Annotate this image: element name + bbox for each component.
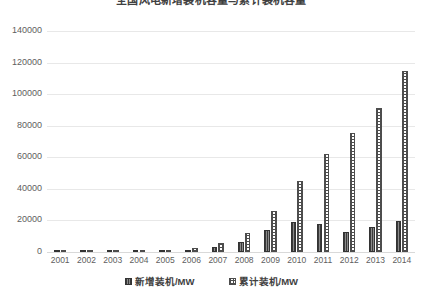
bar-new-capacity[interactable] [369,227,375,252]
x-axis-tick-label: 2002 [73,256,99,265]
y-axis-tick-label: 0 [0,247,42,256]
x-axis-tick-label: 2001 [47,256,73,265]
x-axis-tick-label: 2005 [152,256,178,265]
legend-item[interactable]: 新增装机/MW [125,274,195,288]
x-axis: 2001200220032004200520062007200820092010… [47,256,415,268]
x-axis-tick-label: 2011 [310,256,336,265]
x-axis-tick-label: 2013 [362,256,388,265]
bar-new-capacity[interactable] [264,230,270,252]
y-axis-tick-label: 80000 [0,121,42,130]
x-axis-tick-label: 2010 [284,256,310,265]
bar-cumulative-capacity[interactable] [113,250,119,252]
bar-cumulative-capacity[interactable] [402,71,408,252]
bar-cumulative-capacity[interactable] [324,154,330,252]
bar-cumulative-capacity[interactable] [245,233,251,252]
bar-group [389,31,415,252]
bar-cumulative-capacity[interactable] [166,250,172,252]
y-axis-tick-label: 120000 [0,58,42,67]
chart-title: 全国风电新增装机容量与累计装机容量 [0,0,423,7]
legend-swatch-icon [125,278,132,285]
bar-new-capacity[interactable] [133,250,139,252]
bar-group [100,31,126,252]
legend-label: 累计装机/MW [239,274,299,288]
x-axis-tick-label: 2014 [389,256,415,265]
bar-group [47,31,73,252]
bar-cumulative-capacity[interactable] [271,211,277,252]
x-axis-tick-label: 2007 [205,256,231,265]
bar-group [231,31,257,252]
chart-container: 全国风电新增装机容量与累计装机容量 1400001200001000008000… [0,0,423,292]
bar-new-capacity[interactable] [317,224,323,252]
bar-new-capacity[interactable] [107,250,113,252]
bar-group [284,31,310,252]
x-axis-tick-label: 2003 [100,256,126,265]
bar-group [310,31,336,252]
chart-legend: 新增装机/MW累计装机/MW [0,274,423,288]
bars-layer [47,31,415,252]
bar-new-capacity[interactable] [291,222,297,252]
legend-label: 新增装机/MW [135,274,195,288]
gridline [47,252,415,253]
bar-new-capacity[interactable] [159,250,165,252]
x-axis-tick-label: 2004 [126,256,152,265]
bar-new-capacity[interactable] [396,221,402,252]
bar-new-capacity[interactable] [212,247,218,252]
bar-group [362,31,388,252]
y-axis-tick-label: 60000 [0,152,42,161]
bar-group [178,31,204,252]
y-axis-tick-label: 20000 [0,215,42,224]
bar-cumulative-capacity[interactable] [87,250,93,252]
bar-cumulative-capacity[interactable] [297,181,303,252]
y-axis-tick-label: 140000 [0,26,42,35]
bar-cumulative-capacity[interactable] [350,133,356,252]
legend-item[interactable]: 累计装机/MW [229,274,299,288]
bar-new-capacity[interactable] [80,250,86,252]
bar-group [152,31,178,252]
bar-cumulative-capacity[interactable] [192,248,198,252]
x-axis-tick-label: 2006 [178,256,204,265]
y-axis-tick-label: 40000 [0,184,42,193]
bar-cumulative-capacity[interactable] [61,250,67,252]
x-axis-tick-label: 2012 [336,256,362,265]
x-axis-tick-label: 2008 [231,256,257,265]
y-axis-tick-label: 100000 [0,89,42,98]
x-axis-tick-label: 2009 [257,256,283,265]
legend-swatch-icon [229,278,236,285]
bar-new-capacity[interactable] [238,242,244,252]
bar-cumulative-capacity[interactable] [218,243,224,252]
bar-group [336,31,362,252]
bar-group [126,31,152,252]
bar-new-capacity[interactable] [185,250,191,252]
bar-group [73,31,99,252]
bar-new-capacity[interactable] [54,250,60,252]
bar-cumulative-capacity[interactable] [376,108,382,252]
bar-new-capacity[interactable] [343,232,349,252]
bar-group [257,31,283,252]
bar-cumulative-capacity[interactable] [140,250,146,252]
bar-group [205,31,231,252]
